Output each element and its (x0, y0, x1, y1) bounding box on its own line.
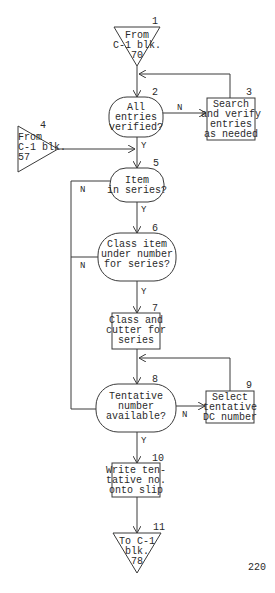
decision-tentative-number-available: 8 Tentative number available? (96, 374, 176, 432)
edge-label-no: N (182, 410, 187, 420)
svg-text:6: 6 (152, 223, 158, 234)
svg-text:series: series (118, 335, 154, 346)
edge-label-no: N (177, 103, 182, 113)
svg-text:70: 70 (131, 50, 143, 61)
svg-text:4: 4 (40, 120, 46, 131)
svg-text:57: 57 (18, 152, 30, 163)
page-number: 220 (248, 562, 266, 573)
decision-all-entries-verified: 2 All entries verified? (109, 87, 163, 137)
svg-text:5: 5 (153, 158, 159, 169)
svg-text:available?: available? (106, 411, 166, 422)
edge-label-no: N (80, 261, 85, 271)
svg-text:10: 10 (152, 453, 164, 464)
edge-label-yes: Y (141, 436, 147, 446)
process-search-verify-entries: 3 Search and verify entries as needed (201, 87, 261, 140)
connector-to-c1-blk-78: 11 To C-1 blk. 78 (113, 522, 165, 573)
edge-label-yes: Y (141, 287, 147, 297)
connector-from-c1-blk-70: 1 From C-1 blk. 70 (113, 16, 161, 66)
svg-text:verified?: verified? (109, 122, 163, 133)
process-class-and-cutter: 7 Class and cutter for series (106, 303, 166, 349)
svg-text:78: 78 (131, 556, 143, 567)
svg-text:3: 3 (246, 87, 252, 98)
edge-label-yes: Y (141, 141, 147, 151)
svg-text:8: 8 (152, 374, 158, 385)
svg-text:2: 2 (152, 87, 158, 98)
edge-label-yes: Y (141, 205, 147, 215)
svg-text:for series?: for series? (104, 259, 170, 270)
svg-text:DC number: DC number (203, 412, 257, 423)
svg-text:7: 7 (152, 303, 158, 314)
process-write-tentative-no: 10 Write ten- tative no. onto slip (106, 453, 166, 497)
edge-label-no: N (80, 185, 85, 195)
svg-text:as needed: as needed (204, 129, 258, 140)
svg-text:11: 11 (153, 522, 165, 533)
flowchart: 1 From C-1 blk. 70 2 All entries verifie… (0, 0, 275, 593)
node-number: 1 (152, 16, 158, 27)
connector-from-c1-blk-57: 4 From C-1 blk. 57 (18, 120, 66, 172)
svg-text:in series?: in series? (107, 185, 167, 196)
svg-text:9: 9 (246, 380, 252, 391)
svg-text:onto slip: onto slip (109, 485, 163, 496)
